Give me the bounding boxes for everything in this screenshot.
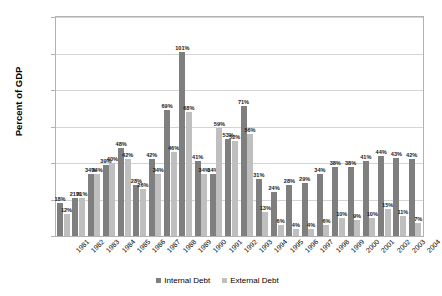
bar-group: 44%15% xyxy=(377,17,392,236)
bar-value-label: 29% xyxy=(297,176,313,182)
bar-external[interactable] xyxy=(79,198,85,236)
bar-group: 21%21% xyxy=(71,17,86,236)
bar-group: 29%4% xyxy=(301,17,316,236)
bar-group: 53%52% xyxy=(224,17,239,236)
x-tick-label: 2000 xyxy=(365,238,381,254)
bar-internal[interactable] xyxy=(409,159,415,236)
legend-item[interactable]: External Debt xyxy=(222,276,278,285)
bar-external[interactable] xyxy=(140,189,146,236)
x-tick-label: 1995 xyxy=(288,238,304,254)
bar-value-label: 31% xyxy=(251,172,267,178)
bar-group: 24%6% xyxy=(270,17,285,236)
bar-external[interactable] xyxy=(354,220,360,236)
bar-group: 28%26% xyxy=(132,17,147,236)
legend-swatch-icon xyxy=(222,278,227,283)
bar-value-label: 38% xyxy=(327,160,343,166)
bar-external[interactable] xyxy=(415,223,421,236)
bar-group: 41%34% xyxy=(194,17,209,236)
bar-value-label: 48% xyxy=(113,141,129,147)
bar-group: 34%34% xyxy=(87,17,102,236)
y-tick-mark xyxy=(51,90,55,91)
x-tick-label: 1990 xyxy=(212,238,228,254)
x-tick-label: 2004 xyxy=(426,238,442,254)
bar-external[interactable] xyxy=(171,152,177,236)
bar-internal[interactable] xyxy=(133,185,139,236)
x-tick-label: 1991 xyxy=(227,238,243,254)
bar-group: 71%56% xyxy=(240,17,255,236)
bar-internal[interactable] xyxy=(348,167,354,236)
bar-internal[interactable] xyxy=(317,174,323,236)
bar-internal[interactable] xyxy=(286,185,292,236)
x-tick-label: 1981 xyxy=(74,238,90,254)
bar-group: 34%59% xyxy=(209,17,224,236)
bar-group: 43%11% xyxy=(392,17,407,236)
bar-external[interactable] xyxy=(155,174,161,236)
bar-value-label: 101% xyxy=(174,45,190,51)
x-tick-label: 1986 xyxy=(151,238,167,254)
bar-internal[interactable] xyxy=(271,192,277,236)
x-tick-label: 1988 xyxy=(181,238,197,254)
bar-external[interactable] xyxy=(339,218,345,236)
bar-internal[interactable] xyxy=(363,161,369,236)
bar-group: 39%40% xyxy=(102,17,117,236)
bar-external[interactable] xyxy=(94,174,100,236)
y-tick-mark xyxy=(51,127,55,128)
bar-value-label: 42% xyxy=(144,152,160,158)
bar-value-label: 38% xyxy=(343,160,359,166)
bar-internal[interactable] xyxy=(72,198,78,236)
bar-external[interactable] xyxy=(201,174,207,236)
bar-group: 38%10% xyxy=(331,17,346,236)
x-tick-label: 1989 xyxy=(197,238,213,254)
bar-external[interactable] xyxy=(293,229,299,236)
gridline xyxy=(56,236,423,237)
legend-item[interactable]: Internal Debt xyxy=(156,276,210,285)
bar-internal[interactable] xyxy=(103,165,109,236)
x-tick-label: 1999 xyxy=(349,238,365,254)
bar-internal[interactable] xyxy=(302,183,308,236)
bar-internal[interactable] xyxy=(378,156,384,236)
bar-external[interactable] xyxy=(186,112,192,236)
bar-internal[interactable] xyxy=(393,158,399,236)
bar-value-label: 42% xyxy=(404,152,420,158)
bar-internal[interactable] xyxy=(210,174,216,236)
x-tick-label: 1996 xyxy=(304,238,320,254)
bar-internal[interactable] xyxy=(179,52,185,236)
x-tick-label: 1993 xyxy=(258,238,274,254)
bar-internal[interactable] xyxy=(164,110,170,236)
bar-value-label: 7% xyxy=(410,216,426,222)
bar-group: 34%6% xyxy=(316,17,331,236)
bar-value-label: 43% xyxy=(388,151,404,157)
x-tick-label: 1983 xyxy=(105,238,121,254)
bar-external[interactable] xyxy=(125,159,131,236)
bar-value-label: 28% xyxy=(281,178,297,184)
bar-value-label: 41% xyxy=(358,154,374,160)
bar-internal[interactable] xyxy=(225,139,231,236)
bar-external[interactable] xyxy=(232,141,238,236)
bar-external[interactable] xyxy=(323,225,329,236)
x-tick-label: 1984 xyxy=(120,238,136,254)
bar-external[interactable] xyxy=(400,216,406,236)
bar-external[interactable] xyxy=(64,214,70,236)
bar-group: 38%9% xyxy=(347,17,362,236)
bar-external[interactable] xyxy=(278,225,284,236)
bar-external[interactable] xyxy=(369,218,375,236)
legend-label: External Debt xyxy=(230,276,278,285)
bar-internal[interactable] xyxy=(332,167,338,236)
x-tick-label: 1985 xyxy=(135,238,151,254)
bar-internal[interactable] xyxy=(88,174,94,236)
bar-external[interactable] xyxy=(247,134,253,236)
bar-external[interactable] xyxy=(216,128,222,236)
y-tick-mark xyxy=(51,163,55,164)
bar-external[interactable] xyxy=(308,229,314,236)
x-tick-label: 1992 xyxy=(242,238,258,254)
bars-area: 18%12%21%21%34%34%39%40%48%42%28%26%42%3… xyxy=(56,17,423,236)
bar-value-label: 41% xyxy=(190,154,206,160)
bar-group: 18%12% xyxy=(56,17,71,236)
bar-value-label: 69% xyxy=(159,103,175,109)
chart-legend: Internal DebtExternal Debt xyxy=(0,276,435,285)
bar-internal[interactable] xyxy=(118,148,124,236)
bar-external[interactable] xyxy=(385,209,391,236)
bar-value-label: 34% xyxy=(312,167,328,173)
bar-external[interactable] xyxy=(109,163,115,236)
bar-external[interactable] xyxy=(262,212,268,236)
